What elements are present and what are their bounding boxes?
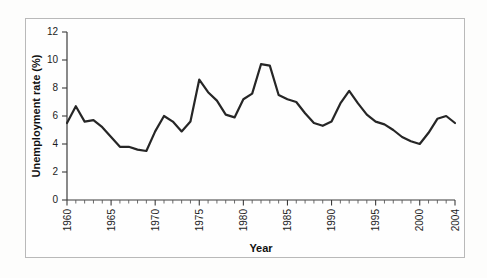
x-axis-tick-label: 1975 xyxy=(194,209,205,232)
x-axis-minor-ticks xyxy=(67,200,455,206)
x-axis-tick-label: 1960 xyxy=(62,209,73,232)
y-axis-ticks xyxy=(62,32,67,200)
unemployment-line-chart: 024681012 196019651970197519801985199019… xyxy=(0,0,487,278)
x-axis-tick-label: 1980 xyxy=(238,209,249,232)
y-axis-tick-label: 12 xyxy=(47,26,59,37)
x-axis-title: Year xyxy=(249,242,273,254)
figure-container: 024681012 196019651970197519801985199019… xyxy=(0,0,487,278)
x-axis-tick-label: 2004 xyxy=(450,209,461,232)
x-axis-tick-label: 1970 xyxy=(150,209,161,232)
y-axis-tick-label: 8 xyxy=(52,82,58,93)
y-axis-tick-label: 4 xyxy=(52,138,58,149)
y-axis: 024681012 xyxy=(47,26,67,205)
y-axis-tick-label: 0 xyxy=(52,194,58,205)
x-axis-tick-label: 2000 xyxy=(414,209,425,232)
y-axis-tick-labels: 024681012 xyxy=(47,26,59,205)
y-axis-tick-label: 6 xyxy=(52,110,58,121)
y-axis-title: Unemployment rate (%) xyxy=(30,54,42,177)
x-axis: 1960196519701975198019851990199520002004 xyxy=(62,200,461,231)
x-axis-tick-label: 1985 xyxy=(282,209,293,232)
y-axis-tick-label: 2 xyxy=(52,166,58,177)
x-axis-tick-labels: 1960196519701975198019851990199520002004 xyxy=(62,209,461,232)
y-axis-tick-label: 10 xyxy=(47,54,59,65)
x-axis-tick-label: 1995 xyxy=(370,209,381,232)
unemployment-rate-series-line xyxy=(67,64,455,151)
x-axis-tick-label: 1965 xyxy=(106,209,117,232)
x-axis-tick-label: 1990 xyxy=(326,209,337,232)
